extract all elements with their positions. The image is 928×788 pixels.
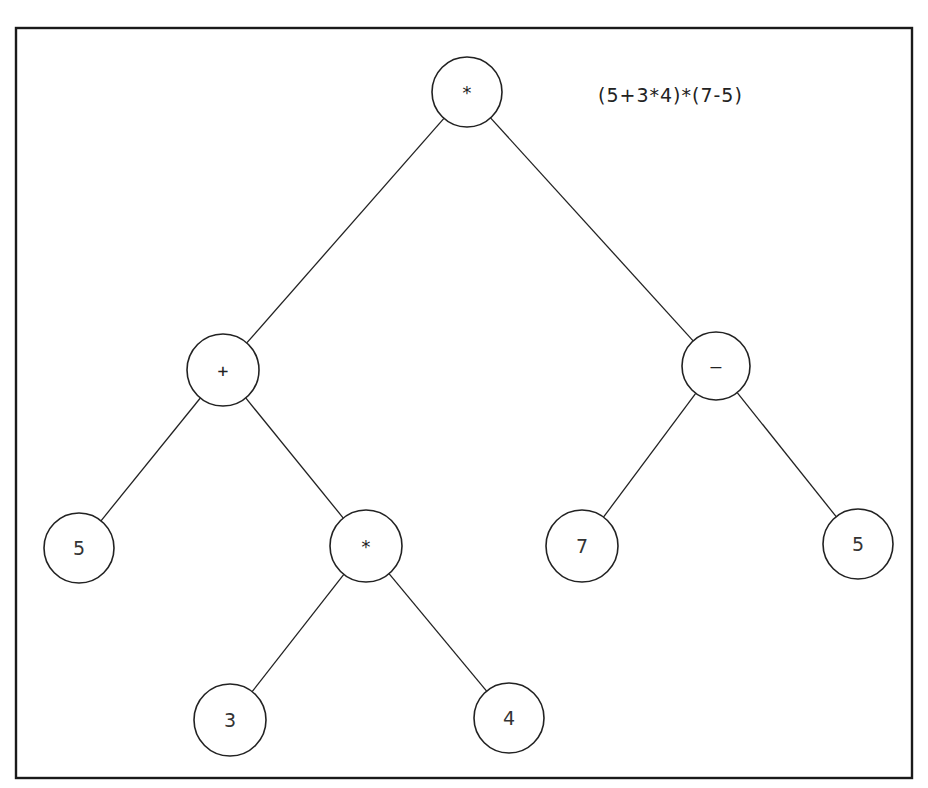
node-label: 4: [503, 707, 515, 729]
formula-caption: (5+3*4)*(7-5): [598, 84, 743, 106]
node-label: 7: [576, 535, 588, 557]
edge-root-to-minus: [491, 118, 694, 341]
edge-minus-to-seven: [603, 393, 695, 517]
tree-node-times-inner: *: [330, 510, 402, 582]
node-label: 5: [852, 533, 864, 555]
tree-node-plus: +: [187, 334, 259, 406]
node-label: *: [462, 82, 473, 103]
edge-root-to-plus: [247, 118, 444, 343]
edge-times-inner-to-four: [389, 574, 487, 691]
node-label: –: [711, 356, 722, 377]
tree-node-minus: –: [682, 332, 750, 400]
tree-node-root: *: [432, 57, 502, 127]
tree-node-five-left: 5: [44, 513, 114, 583]
node-label: *: [361, 536, 372, 557]
edge-times-inner-to-three: [252, 574, 344, 691]
edge-minus-to-five-right: [737, 393, 836, 517]
tree-node-three: 3: [194, 684, 266, 756]
tree-nodes: *+–5*7534: [44, 57, 893, 756]
tree-node-four: 4: [474, 683, 544, 753]
node-label: 3: [224, 709, 236, 731]
node-label: 5: [73, 537, 85, 559]
tree-node-five-right: 5: [823, 509, 893, 579]
expression-tree-diagram: *+–5*7534 (5+3*4)*(7-5): [0, 0, 928, 788]
node-label: +: [218, 360, 229, 381]
diagram-frame: [16, 28, 912, 778]
tree-node-seven: 7: [546, 510, 618, 582]
edge-plus-to-times-inner: [246, 398, 344, 518]
edge-plus-to-five-left: [101, 398, 200, 521]
